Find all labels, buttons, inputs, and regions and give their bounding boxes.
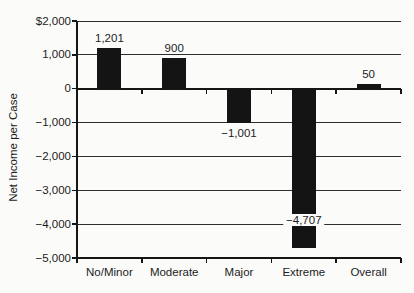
zero-tick-mark xyxy=(141,89,143,94)
y-tick-label: −4,000 xyxy=(0,218,71,230)
gridline xyxy=(77,190,401,191)
x-tick-mark xyxy=(141,258,143,263)
zero-tick-mark xyxy=(271,89,273,94)
gridline xyxy=(77,224,401,225)
plot-area: $2,0001,0000−1,000−2,000−3,000−4,000−5,0… xyxy=(0,0,414,293)
bar-value-label: −1,001 xyxy=(221,127,257,139)
category-label-major: Major xyxy=(225,266,254,278)
category-label-moderate: Moderate xyxy=(150,266,199,278)
zero-tick-mark xyxy=(400,89,402,94)
category-label-no-minor: No/Minor xyxy=(86,266,133,278)
y-tick-label: −3,000 xyxy=(0,184,71,196)
bar-moderate xyxy=(162,58,186,88)
bar-major xyxy=(227,89,251,123)
zero-tick-mark xyxy=(206,89,208,94)
y-tick-label: 1,000 xyxy=(0,48,71,60)
bar-value-label: 1,201 xyxy=(95,32,124,44)
gridline xyxy=(77,54,401,55)
x-tick-mark xyxy=(206,258,208,263)
bar-chart-figure: Net Income per Case $2,0001,0000−1,000−2… xyxy=(0,0,414,293)
bar-value-label: 900 xyxy=(165,42,184,54)
bar-overall xyxy=(357,84,381,89)
y-tick-label: $2,000 xyxy=(0,15,71,27)
x-axis-line xyxy=(77,257,401,259)
x-tick-mark xyxy=(400,258,402,263)
x-tick-mark xyxy=(335,258,337,263)
gridline xyxy=(77,21,401,22)
y-axis-line xyxy=(76,21,78,259)
y-tick-label: 0 xyxy=(0,82,71,94)
bar-no-minor xyxy=(97,48,121,89)
category-label-overall: Overall xyxy=(350,266,386,278)
zero-tick-mark xyxy=(335,89,337,94)
x-tick-mark xyxy=(76,258,78,263)
y-tick-label: −1,000 xyxy=(0,116,71,128)
bar-value-label: −4,707 xyxy=(283,214,325,226)
category-label-extreme: Extreme xyxy=(282,266,325,278)
y-tick-label: −2,000 xyxy=(0,150,71,162)
y-tick-label: −5,000 xyxy=(0,252,71,264)
bar-value-label: 50 xyxy=(362,68,375,80)
gridline xyxy=(77,156,401,157)
x-tick-mark xyxy=(271,258,273,263)
